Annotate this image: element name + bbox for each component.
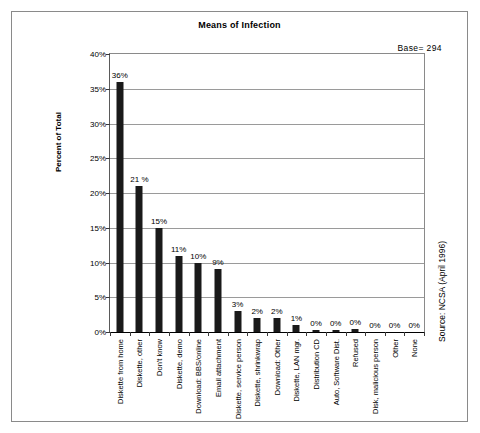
bar: [195, 263, 202, 333]
bar: [156, 228, 163, 332]
y-axis-title: Percent of Total: [54, 112, 63, 172]
x-axis-tick-mark: [287, 332, 288, 336]
bar-value-label: 15%: [151, 217, 167, 226]
x-axis-tick-mark: [306, 332, 307, 336]
y-axis-tick-label: 40%: [90, 50, 106, 59]
x-axis-tick-mark: [346, 332, 347, 336]
x-axis-category-label: Other: [390, 339, 399, 358]
x-axis-tick-mark: [247, 332, 248, 336]
bar: [332, 330, 339, 332]
x-axis-tick-mark: [424, 332, 425, 336]
bar-value-label: 1%: [291, 314, 303, 323]
x-axis-tick-mark: [130, 332, 131, 336]
x-axis-tick-mark: [189, 332, 190, 336]
y-axis-tick-label: 15%: [90, 223, 106, 232]
x-axis-category-label: Diskette, other: [135, 339, 144, 387]
x-axis-category-label: Diskette, shrinkwrap: [253, 339, 262, 407]
bar-value-label: 10%: [190, 252, 206, 261]
bar: [293, 325, 300, 332]
bar-value-label: 0%: [330, 319, 342, 328]
bar-value-label: 21 %: [130, 175, 148, 184]
y-axis-tick-label: 20%: [90, 189, 106, 198]
bar: [116, 82, 123, 332]
bar-value-label: 0%: [369, 321, 381, 330]
x-axis-category-label: Disk, malicious person: [370, 339, 379, 414]
bar-value-label: 0%: [408, 321, 420, 330]
plot-area: 0%5%10%15%20%25%30%35%40% 36%Diskette fr…: [109, 53, 425, 333]
x-axis-category-label: None: [410, 339, 419, 357]
bar-value-label: 3%: [232, 300, 244, 309]
x-axis-category-label: Auto, Software Dist.: [331, 339, 340, 405]
x-axis-category-label: Diskette, service person: [233, 339, 242, 419]
bar-group: 0%Disk, malicious person: [365, 54, 385, 332]
bar-value-label: 36%: [112, 71, 128, 80]
bar-group: 0%Distribution CD: [306, 54, 326, 332]
bar-group: 21 %Diskette, other: [130, 54, 150, 332]
x-axis-tick-mark: [110, 332, 111, 336]
bar-group: 11%Diskette, demo: [169, 54, 189, 332]
bar-group: 15%Don't know: [149, 54, 169, 332]
x-axis-category-label: Diskette from home: [115, 339, 124, 404]
bar-value-label: 0%: [350, 318, 362, 327]
bar: [175, 256, 182, 332]
x-axis-tick-mark: [365, 332, 366, 336]
bar: [273, 318, 280, 332]
bar: [352, 329, 359, 332]
bar: [254, 318, 261, 332]
x-axis-category-label: Diskette, LAN mgr.: [292, 339, 301, 402]
bar-value-label: 2%: [271, 307, 283, 316]
bar-group: 1%Diskette, LAN mgr.: [287, 54, 307, 332]
x-axis-category-label: Diskette, demo: [174, 339, 183, 389]
bar-group: 10%Download: BBS/online: [189, 54, 209, 332]
x-axis-category-label: Download: BBS/online: [194, 339, 203, 414]
x-axis-category-label: Don't know: [155, 339, 164, 376]
x-axis-tick-mark: [385, 332, 386, 336]
bar-value-label: 9%: [212, 258, 224, 267]
bar-group: 0%Other: [385, 54, 405, 332]
bar-group: 36%Diskette from home: [110, 54, 130, 332]
bar-value-label: 2%: [251, 307, 263, 316]
bar-group: 2%Diskette, shrinkwrap: [247, 54, 267, 332]
x-axis-tick-mark: [267, 332, 268, 336]
bar-group: 3%Diskette, service person: [228, 54, 248, 332]
bar-group: 0%Auto, Software Dist.: [326, 54, 346, 332]
bar-value-label: 0%: [310, 319, 322, 328]
source-note: Source: NCSA (April 1996): [437, 241, 447, 342]
x-axis-category-label: Distribution CD: [312, 339, 321, 389]
bar-value-label: 0%: [389, 321, 401, 330]
y-axis-tick-label: 25%: [90, 154, 106, 163]
x-axis-tick-mark: [404, 332, 405, 336]
bar-value-label: 11%: [171, 245, 186, 254]
y-axis-tick-label: 35%: [90, 84, 106, 93]
bar-group: 0%Refused: [346, 54, 366, 332]
y-axis-tick-label: 0%: [94, 328, 106, 337]
x-axis-tick-mark: [169, 332, 170, 336]
page-title: Means of Infection: [12, 20, 467, 30]
base-annotation: Base= 294: [398, 43, 442, 53]
x-axis-tick-mark: [149, 332, 150, 336]
bar: [136, 186, 143, 332]
y-axis-tick-label: 5%: [94, 293, 106, 302]
bar: [234, 311, 241, 332]
bar: [214, 269, 221, 332]
bar-group: 9%Email attachment: [208, 54, 228, 332]
bar-group: 2%Download: Other: [267, 54, 287, 332]
x-axis-tick-mark: [228, 332, 229, 336]
bar-group: 0%None: [404, 54, 424, 332]
x-axis-category-label: Email attachment: [213, 339, 222, 397]
bar: [313, 330, 320, 332]
y-axis-tick-label: 10%: [90, 258, 106, 267]
chart-figure: Means of Infection Base= 294 Percent of …: [11, 11, 468, 422]
x-axis-category-label: Download: Other: [272, 339, 281, 395]
x-axis-tick-mark: [326, 332, 327, 336]
y-axis-tick-label: 30%: [90, 119, 106, 128]
x-axis-category-label: Refused: [351, 339, 360, 367]
x-axis-tick-mark: [208, 332, 209, 336]
